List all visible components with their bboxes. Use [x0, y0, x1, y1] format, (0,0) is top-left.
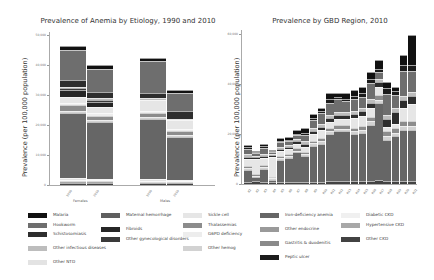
legend-item: Fibroids [101, 226, 191, 232]
x-tick-label: 2010 [92, 189, 100, 198]
x-tick-label: R4 [271, 188, 277, 194]
x-tick-label: R3 [263, 188, 269, 194]
y-tick-label: 20,000 [20, 123, 46, 127]
stacked-bar [375, 60, 383, 184]
stacked-bar [400, 55, 408, 184]
legend-swatch [260, 255, 279, 260]
x-tick-label: 1990 [65, 189, 73, 198]
legend-label: Diabetic CKD [366, 212, 394, 217]
bar-segment [392, 136, 400, 181]
legend-swatch [101, 237, 120, 242]
stacked-bar [310, 114, 318, 184]
x-tick-label: R1 [247, 188, 253, 194]
bar-segment [260, 169, 268, 182]
bar-segment [310, 134, 318, 141]
legend-swatch [341, 213, 360, 218]
stacked-bar [408, 35, 416, 184]
stacked-bar [318, 108, 326, 184]
x-tick-label: R19 [395, 188, 402, 195]
bar-segment [342, 131, 350, 181]
bar-segment [400, 108, 408, 121]
legend-label: G6PD deficiency [208, 231, 242, 236]
bar-segment [277, 160, 285, 182]
bar-segment [383, 94, 391, 114]
bar-segment [334, 99, 342, 112]
bar-segment [367, 125, 375, 181]
legend-label: Other gynecological disorders [126, 236, 189, 241]
bar-segment [60, 90, 86, 97]
bar-segment [367, 181, 375, 184]
bar-segment [367, 83, 375, 99]
stacked-bar [252, 151, 260, 184]
bar-segment [383, 181, 391, 184]
bar-segment [269, 182, 277, 184]
y-tick-label: 0 [20, 183, 46, 187]
x-tick-label: R2 [255, 188, 261, 194]
legend-item: Gastritis & duodenitis [260, 240, 350, 246]
bar-segment [367, 108, 375, 117]
legend-item: Other infectious diseases [28, 245, 118, 251]
bar-segment [60, 183, 86, 185]
bar-segment [87, 122, 113, 178]
bar-segment [244, 182, 252, 184]
bar-segment [318, 144, 326, 182]
bar-segment [400, 181, 408, 184]
bar-segment [359, 133, 367, 182]
y-tick-mark [47, 95, 49, 96]
legend-swatch [101, 227, 120, 232]
x-tick-label: R15 [362, 188, 369, 195]
y-tick-mark [47, 125, 49, 126]
stacked-bar [167, 90, 193, 185]
stacked-bar [87, 65, 113, 185]
bar-segment [342, 181, 350, 184]
legend-item: Peptic ulcer [260, 254, 350, 260]
legend-swatch [260, 241, 279, 246]
x-tick-label: R20 [403, 188, 410, 195]
legend-swatch [341, 223, 360, 228]
y-tick-label: 60,000 [212, 32, 238, 36]
stacked-bar [260, 144, 268, 184]
legend-label: Other CKD [366, 236, 388, 241]
x-tick-label: R11 [330, 188, 337, 195]
stacked-bar [60, 46, 86, 185]
x-tick-label: R18 [387, 188, 394, 195]
bar-segment [392, 95, 400, 109]
legend-label: Other hemog [208, 245, 236, 250]
bar-segment [408, 104, 416, 122]
legend-label: Malaria [53, 212, 68, 217]
bar-segment [293, 152, 301, 182]
bar-segment [383, 119, 391, 127]
stacked-bar [392, 87, 400, 184]
right-x-axis [241, 184, 417, 185]
bar-segment [60, 80, 86, 87]
bar-segment [351, 181, 359, 184]
bar-segment [310, 146, 318, 182]
right-y-axis [241, 30, 242, 185]
y-tick-label: 0 [212, 182, 238, 186]
legend-label: Hookworm [53, 222, 75, 227]
bar-segment [408, 130, 416, 181]
bar-segment [400, 55, 408, 65]
y-tick-mark [47, 35, 49, 36]
legend-swatch [183, 232, 202, 237]
legend: MalariaHookwormSchistosomiasisOther infe… [28, 212, 428, 272]
legend-swatch [260, 227, 279, 232]
legend-label: Fibroids [126, 226, 142, 231]
bar-segment [326, 134, 334, 181]
bar-segment [269, 157, 277, 177]
x-tick-label: R8 [304, 188, 310, 194]
legend-swatch [28, 260, 47, 265]
y-tick-mark [239, 134, 241, 135]
stacked-bar [383, 82, 391, 184]
legend-swatch [183, 213, 202, 218]
bar-segment [318, 113, 326, 124]
stacked-bar [293, 130, 301, 184]
bar-segment [375, 103, 383, 180]
bar-segment [375, 87, 383, 94]
y-tick-mark [239, 34, 241, 35]
legend-item: Diabetic CKD [341, 212, 431, 218]
bar-segment [87, 183, 113, 185]
legend-swatch [260, 213, 279, 218]
bar-segment [301, 156, 309, 182]
legend-swatch [28, 246, 47, 251]
